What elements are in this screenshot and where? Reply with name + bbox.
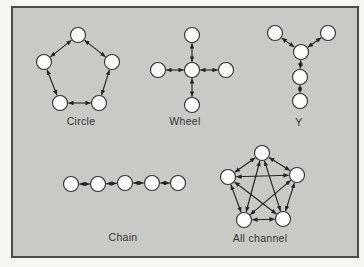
circle-node: [37, 55, 52, 70]
all-channel-node: [255, 146, 270, 161]
figure-panel: [12, 7, 358, 257]
chain-node: [64, 177, 79, 192]
all-channel-node: [290, 168, 305, 183]
circle-node: [71, 28, 86, 43]
all-channel-node: [221, 170, 236, 185]
y-node: [293, 70, 308, 85]
wheel-node: [219, 63, 234, 78]
circle-node: [105, 55, 120, 70]
network-label-y: Y: [295, 117, 302, 128]
wheel-node: [185, 63, 200, 78]
chain-node: [145, 176, 160, 191]
all-channel-node: [276, 212, 291, 227]
networks-diagram: [0, 0, 364, 267]
all-channel-node: [237, 213, 252, 228]
y-node: [294, 45, 309, 60]
wheel-node: [151, 63, 166, 78]
wheel-node: [185, 98, 200, 113]
communication-networks-figure: Circle Wheel Y Chain All channel: [0, 0, 364, 267]
y-node: [268, 26, 283, 41]
chain-node: [118, 176, 133, 191]
y-node: [321, 26, 336, 41]
chain-node: [91, 177, 106, 192]
all-channel-edge-arrow: [252, 219, 274, 220]
network-label-chain: Chain: [109, 232, 138, 243]
network-label-wheel: Wheel: [169, 116, 200, 127]
network-label-all-channel: All channel: [233, 233, 288, 244]
wheel-node: [185, 28, 200, 43]
chain-node: [171, 176, 186, 191]
network-label-circle: Circle: [67, 116, 96, 127]
circle-node: [92, 96, 107, 111]
y-node: [293, 94, 308, 109]
circle-node: [53, 96, 68, 111]
